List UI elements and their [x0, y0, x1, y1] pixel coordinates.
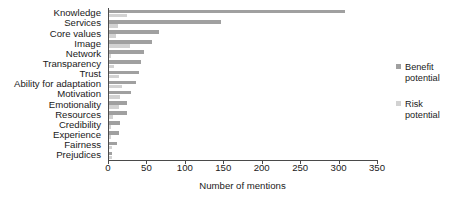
- legend-swatch-icon: [396, 101, 401, 106]
- bar-chart: KnowledgeServicesCore valuesImageNetwork…: [0, 0, 453, 205]
- x-tick-label: 0: [105, 163, 110, 173]
- bar: [109, 30, 159, 34]
- category-label: Emotionality: [0, 99, 105, 109]
- x-axis-title: Number of mentions: [108, 181, 377, 191]
- legend-label: potential: [405, 73, 453, 84]
- bar: [109, 71, 139, 75]
- bar: [109, 75, 119, 79]
- bar: [109, 95, 120, 99]
- x-tick-label: 150: [215, 163, 231, 173]
- bar: [109, 54, 111, 58]
- bar-group: [109, 49, 377, 59]
- category-label: Services: [0, 18, 105, 28]
- bar: [109, 125, 111, 129]
- x-tick-label: 250: [292, 163, 308, 173]
- bar: [109, 146, 112, 150]
- bar: [109, 40, 152, 44]
- category-label: Prejudices: [0, 150, 105, 160]
- bar-group: [109, 69, 377, 79]
- bar: [109, 24, 118, 28]
- legend-swatch-icon: [396, 64, 401, 69]
- bar: [109, 115, 113, 119]
- bar: [109, 156, 112, 160]
- x-tick-labels: 050100150200250300350: [108, 163, 377, 177]
- bar: [109, 135, 111, 139]
- x-tick-label: 350: [369, 163, 385, 173]
- x-tick-label: 100: [177, 163, 193, 173]
- bar: [109, 131, 119, 135]
- bar: [109, 111, 127, 115]
- x-axis-line: [108, 160, 377, 161]
- category-axis: KnowledgeServicesCore valuesImageNetwork…: [0, 8, 105, 160]
- category-label: Core values: [0, 28, 105, 38]
- legend-entry: Riskpotential: [396, 99, 453, 120]
- legend-label: Risk: [405, 99, 453, 110]
- plot-area: [108, 8, 377, 160]
- bar-group: [109, 140, 377, 150]
- bar: [109, 14, 127, 18]
- bar: [109, 20, 221, 24]
- bar: [109, 65, 114, 69]
- bar-group: [109, 8, 377, 18]
- bar: [109, 85, 122, 89]
- bar-group: [109, 18, 377, 28]
- bar: [109, 10, 345, 14]
- bar: [109, 152, 112, 156]
- bar-group: [109, 130, 377, 140]
- x-tick-label: 300: [331, 163, 347, 173]
- bar: [109, 44, 130, 48]
- bar: [109, 50, 144, 54]
- bar: [109, 105, 119, 109]
- legend-entry: Benefitpotential: [396, 62, 453, 83]
- x-tick-label: 50: [141, 163, 152, 173]
- bar-group: [109, 109, 377, 119]
- bar-group: [109, 119, 377, 129]
- legend-label: potential: [405, 110, 453, 121]
- bar-group: [109, 28, 377, 38]
- bar: [109, 142, 117, 146]
- bar-group: [109, 150, 377, 160]
- bar: [109, 81, 136, 85]
- bar-group: [109, 89, 377, 99]
- x-tick-label: 200: [254, 163, 270, 173]
- legend-label: Benefit: [405, 62, 453, 73]
- bar: [109, 60, 141, 64]
- category-label: Motivation: [0, 89, 105, 99]
- bar: [109, 34, 116, 38]
- bar-group: [109, 38, 377, 48]
- bar: [109, 121, 120, 125]
- bar: [109, 101, 127, 105]
- bar-group: [109, 99, 377, 109]
- bar: [109, 91, 131, 95]
- bar-group: [109, 59, 377, 69]
- chart-legend: BenefitpotentialRiskpotential: [396, 62, 453, 136]
- bar-group: [109, 79, 377, 89]
